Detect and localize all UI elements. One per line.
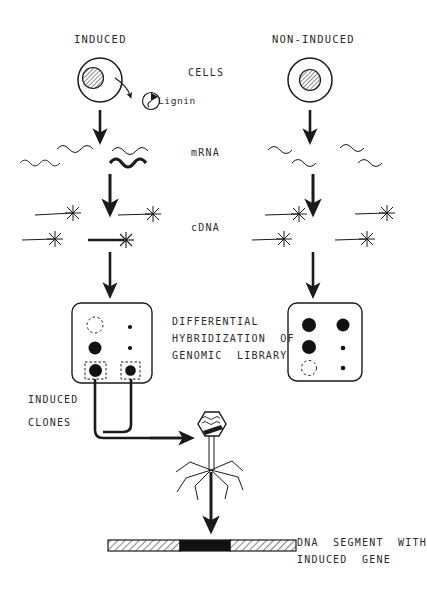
cdna-strand xyxy=(335,231,375,247)
cdna-strand-bold xyxy=(88,232,134,248)
cdna-induced-group xyxy=(22,205,161,248)
label-starburst xyxy=(276,231,292,247)
label-starburst xyxy=(65,205,81,221)
cdna-strand xyxy=(22,231,63,247)
label-starburst xyxy=(145,206,161,222)
induced-cell xyxy=(78,58,160,110)
cdna-strand xyxy=(118,206,161,222)
plate-spot-faint xyxy=(128,346,132,350)
dna-induced-gene xyxy=(180,540,230,551)
plate-spot-empty xyxy=(87,317,103,333)
label-starburst xyxy=(47,231,63,247)
plate-spot-dark xyxy=(337,319,350,332)
lignin-icon xyxy=(143,93,160,110)
label-starburst xyxy=(359,231,375,247)
plate-spot-faint xyxy=(341,366,346,371)
cdna-strand xyxy=(252,231,292,247)
label-starburst xyxy=(379,205,395,221)
cdna-non-induced-group xyxy=(252,205,395,247)
plate-non-induced[interactable] xyxy=(288,303,362,381)
plate-spot-empty xyxy=(302,361,317,376)
plate-spot-dark xyxy=(89,342,102,355)
dna-segment-bar xyxy=(108,540,296,551)
plate-spot-faint xyxy=(341,346,346,351)
plate-induced[interactable] xyxy=(72,303,152,383)
clone-connector-right xyxy=(103,379,131,432)
clone-connector-left xyxy=(95,379,181,438)
plate-spot-faint xyxy=(128,325,132,329)
label-starburst xyxy=(291,206,307,222)
plate-spot-dark-selected xyxy=(89,364,102,377)
cdna-strand xyxy=(355,205,395,221)
mrna-induced-bold xyxy=(110,159,146,167)
cdna-strand xyxy=(265,206,307,222)
plate-spot-dark xyxy=(302,340,316,354)
cdna-strand xyxy=(35,205,81,221)
plate-spot-dark xyxy=(302,318,316,332)
mrna-induced-group xyxy=(20,146,148,168)
mrna-non-induced-group xyxy=(268,145,382,167)
dna-flank-left xyxy=(108,540,180,551)
non-induced-cell xyxy=(288,58,332,102)
dna-flank-right xyxy=(230,540,296,551)
plate-spot-dark-selected xyxy=(125,365,136,376)
label-starburst xyxy=(118,232,134,248)
